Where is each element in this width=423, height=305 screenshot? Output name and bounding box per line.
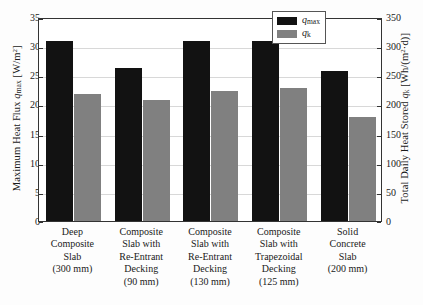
y-axis-right-tickmark: [377, 222, 381, 223]
y-axis-left-tickmark: [39, 222, 43, 223]
x-axis-category-label-line: (90 mm): [107, 276, 176, 288]
y-axis-left-tick-label: 25: [14, 71, 40, 81]
x-axis-category-label-line: Slab with: [107, 238, 176, 250]
bar-qk: [74, 94, 101, 221]
x-axis-category-label-line: Composite: [176, 226, 245, 238]
legend-label: qk: [302, 27, 311, 39]
y-axis-left-tick-label: 30: [14, 42, 40, 52]
bar-series-container: [39, 19, 381, 221]
bar-group: [108, 19, 177, 221]
x-axis-category-label: CompositeSlab withRe-EntrantDecking(130 …: [176, 226, 245, 288]
bar-qmax: [183, 41, 210, 221]
x-axis-category-label-line: (300 mm): [38, 263, 107, 275]
x-axis-category-label-line: (125 mm): [244, 276, 313, 288]
bar-group: [245, 19, 314, 221]
y-axis-left-tick-label: 0: [14, 217, 40, 227]
x-axis-category-label-line: Composite: [107, 226, 176, 238]
x-axis-category-label: SolidConcreteSlab(200 mm): [313, 226, 382, 276]
x-axis-category-label-line: Decking: [107, 263, 176, 275]
legend-item: qmax: [277, 14, 320, 27]
x-axis-category-label-line: Re-Entrant: [176, 251, 245, 263]
bar-qk: [349, 117, 376, 221]
bar-qk: [143, 100, 170, 221]
x-axis-category-label-line: Concrete: [313, 238, 382, 250]
y-axis-right-tick-label: 100: [386, 159, 412, 169]
bar-qmax: [321, 71, 348, 221]
legend-label: qmax: [302, 14, 320, 26]
x-axis-category-label-line: Slab: [313, 251, 382, 263]
legend-item: qk: [277, 27, 320, 40]
y-axis-left-tick-label: 5: [14, 188, 40, 198]
y-axis-right-ticks: 350300250200150100500: [386, 0, 412, 305]
x-axis-category-label: CompositeSlab withTrapezoidalDecking(125…: [244, 226, 313, 288]
y-axis-right-tick-label: 300: [386, 42, 412, 52]
bar-chart-figure: Maximum Heat Flux qmax [W/m2] Total Dail…: [0, 0, 423, 305]
legend-label-subscript: k: [307, 31, 311, 40]
y-axis-right-tick-label: 250: [386, 71, 412, 81]
y-axis-right-tick-label: 150: [386, 130, 412, 140]
plot-area: [38, 18, 382, 222]
legend-swatch-qk: [277, 30, 297, 38]
x-axis-category-label-line: Deep: [38, 226, 107, 238]
bar-qmax: [46, 41, 73, 221]
x-axis-category-label-line: Decking: [176, 263, 245, 275]
y-axis-left-tick-label: 35: [14, 13, 40, 23]
x-axis-category-label-line: (130 mm): [176, 276, 245, 288]
x-axis-category-label-line: (200 mm): [313, 263, 382, 275]
y-axis-left-tick-label: 20: [14, 100, 40, 110]
x-axis-category-label-line: Slab: [38, 251, 107, 263]
legend: qmaxqk: [272, 11, 326, 44]
x-axis-category-label-line: Composite: [38, 238, 107, 250]
bar-qk: [280, 88, 307, 221]
x-axis-category-label-line: Re-Entrant: [107, 251, 176, 263]
x-axis-category-label-line: Slab with: [176, 238, 245, 250]
bar-group: [314, 19, 383, 221]
y-axis-right-tick-label: 50: [386, 188, 412, 198]
x-axis-category-label: DeepCompositeSlab(300 mm): [38, 226, 107, 276]
legend-swatch-qmax: [277, 17, 297, 25]
bar-qmax: [252, 41, 279, 221]
bar-group: [177, 19, 246, 221]
legend-label-subscript: max: [307, 18, 320, 27]
x-axis-category-label-line: Trapezoidal: [244, 251, 313, 263]
y-axis-left-tick-label: 15: [14, 130, 40, 140]
bar-qk: [211, 91, 238, 221]
y-axis-left-tick-label: 10: [14, 159, 40, 169]
x-axis-category-label-line: Decking: [244, 263, 313, 275]
y-axis-right-tick-label: 350: [386, 13, 412, 23]
y-axis-right-tick-label: 0: [386, 217, 412, 227]
x-axis-category-labels: DeepCompositeSlab(300 mm)CompositeSlab w…: [38, 226, 382, 302]
x-axis-category-label: CompositeSlab withRe-EntrantDecking(90 m…: [107, 226, 176, 288]
y-axis-left-ticks: 35302520151050: [14, 0, 40, 305]
x-axis-category-label-line: Solid: [313, 226, 382, 238]
bar-qmax: [115, 68, 142, 221]
y-axis-right-tick-label: 200: [386, 100, 412, 110]
x-axis-category-label-line: Slab with: [244, 238, 313, 250]
x-axis-category-label-line: Composite: [244, 226, 313, 238]
bar-group: [39, 19, 108, 221]
